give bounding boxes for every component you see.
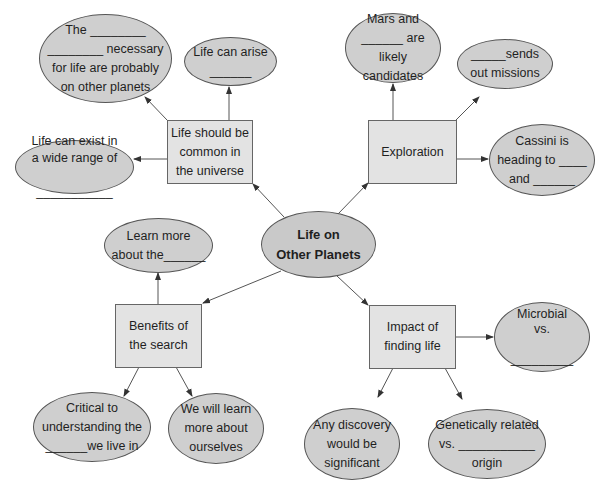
leaf-label: Mars and ______ are likely candidates bbox=[346, 10, 440, 86]
branch-label: Benefits of the search bbox=[129, 317, 188, 355]
leaf-label: We will learn more about ourselves bbox=[181, 400, 252, 457]
leaf-microbial: Microbial vs. _________ bbox=[494, 302, 590, 372]
branch-impact: Impact of finding life bbox=[369, 305, 456, 369]
leaf-label: Genetically related vs. ___________ orig… bbox=[435, 416, 539, 473]
branch-label: Exploration bbox=[381, 143, 444, 162]
central-topic-node: Life on Other Planets bbox=[261, 211, 376, 278]
leaf-label: Cassini is heading to ____ and ______ bbox=[497, 132, 587, 189]
leaf-critical-understanding: Critical to understanding the ______we l… bbox=[33, 392, 151, 462]
central-topic-label: Life on Other Planets bbox=[276, 225, 361, 265]
leaf-any-discovery: Any discovery would be significant bbox=[304, 408, 400, 480]
leaf-learn-ourselves: We will learn more about ourselves bbox=[168, 393, 264, 464]
branch-exploration: Exploration bbox=[368, 120, 457, 184]
leaf-label: Any discovery would be significant bbox=[313, 416, 391, 473]
leaf-cassini: Cassini is heading to ____ and ______ bbox=[489, 124, 595, 196]
leaf-label: Life can exist in a wide range of ______… bbox=[31, 133, 117, 201]
branch-label: Impact of finding life bbox=[384, 318, 440, 356]
leaf-label: Learn more about the______ bbox=[112, 227, 206, 265]
leaf-label: The ________ ________ necessary for life… bbox=[47, 21, 163, 97]
leaf-label: _____sends out missions bbox=[470, 45, 539, 83]
leaf-sends-missions: _____sends out missions bbox=[457, 39, 553, 89]
branch-label: Life should be common in the universe bbox=[171, 124, 249, 181]
leaf-label: Life can arise ______ bbox=[193, 43, 267, 81]
branch-life-common: Life should be common in the universe bbox=[167, 120, 253, 184]
leaf-label: Microbial vs. _________ bbox=[511, 307, 574, 367]
leaf-wide-range: Life can exist in a wide range of ______… bbox=[15, 140, 134, 194]
leaf-mars-candidates: Mars and ______ are likely candidates bbox=[345, 13, 441, 83]
branch-benefits: Benefits of the search bbox=[115, 304, 202, 368]
leaf-genetically-related: Genetically related vs. ___________ orig… bbox=[428, 409, 546, 479]
leaf-label: Critical to understanding the ______we l… bbox=[42, 399, 142, 456]
leaf-necessary-ingredients: The ________ ________ necessary for life… bbox=[39, 14, 172, 103]
leaf-learn-more: Learn more about the______ bbox=[104, 218, 213, 273]
leaf-life-can-arise: Life can arise ______ bbox=[184, 37, 277, 86]
